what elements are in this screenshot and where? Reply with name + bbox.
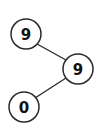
edge-node1-node2 <box>37 44 66 60</box>
node-label: 9 <box>73 61 83 79</box>
tree-node-right: 9 <box>63 54 93 84</box>
tree-diagram: 9 9 0 <box>0 0 103 124</box>
node-label: 9 <box>21 26 31 44</box>
tree-node-bottom-left: 0 <box>9 92 39 122</box>
edge-node2-node3 <box>35 78 66 98</box>
node-label: 0 <box>19 99 29 117</box>
tree-node-top-left: 9 <box>11 19 41 49</box>
